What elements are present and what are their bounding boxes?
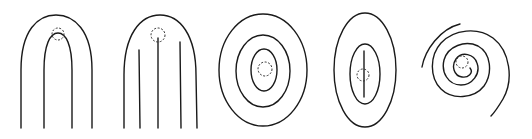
inner-ellipse <box>350 44 380 104</box>
spiral <box>432 31 509 116</box>
panel-1-loop <box>21 15 92 128</box>
core-marker-icon <box>456 56 468 68</box>
outer-ellipse <box>219 14 307 126</box>
panel-3-concentric <box>219 14 307 126</box>
outer-arch <box>124 15 197 128</box>
core-marker-icon <box>357 69 369 81</box>
panel-4-elongated <box>334 13 396 127</box>
figure-canvas <box>0 0 532 139</box>
outer-ellipse <box>334 13 396 127</box>
right-rod <box>180 42 181 128</box>
outer-arch <box>21 15 92 128</box>
left-rod <box>139 50 140 128</box>
panel-2-arch <box>124 15 197 128</box>
inner-ellipse <box>251 49 277 91</box>
inner-arch <box>44 33 72 128</box>
panel-5-spiral <box>422 24 509 116</box>
middle-ellipse <box>236 35 290 107</box>
core-marker-icon <box>258 62 272 76</box>
